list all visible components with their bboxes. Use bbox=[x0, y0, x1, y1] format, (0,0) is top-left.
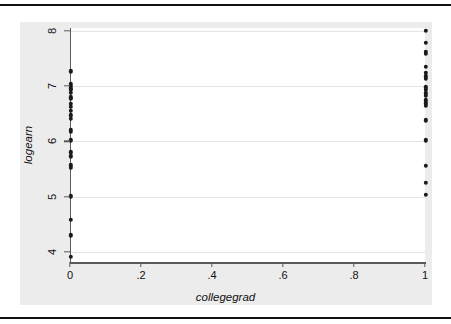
scatter-point bbox=[69, 154, 73, 158]
y-tick-label-4: 4 bbox=[46, 249, 58, 255]
gridline-y-6 bbox=[71, 141, 425, 142]
scatter-point bbox=[424, 52, 428, 56]
x-tick-.4 bbox=[211, 262, 212, 267]
x-tick-.2 bbox=[140, 262, 141, 267]
x-axis-line bbox=[70, 262, 426, 264]
scatter-point bbox=[69, 233, 73, 237]
x-tick-.8 bbox=[353, 262, 354, 267]
plot-area bbox=[70, 28, 425, 262]
x-tick-0 bbox=[69, 262, 70, 267]
scatter-point bbox=[69, 130, 73, 134]
y-tick-4 bbox=[64, 251, 70, 252]
scatter-point bbox=[69, 117, 73, 121]
x-tick-label-.4: .4 bbox=[207, 269, 216, 281]
scatter-point bbox=[424, 77, 428, 81]
x-tick-1 bbox=[424, 262, 425, 267]
gridline-y-7 bbox=[71, 86, 425, 87]
bottom-horizontal-rule bbox=[0, 317, 451, 319]
y-tick-5 bbox=[64, 196, 70, 197]
scatter-point bbox=[69, 255, 73, 259]
scatter-point bbox=[424, 138, 428, 142]
scatter-point bbox=[424, 181, 428, 185]
y-tick-label-5: 5 bbox=[46, 194, 58, 200]
y-tick-label-8: 8 bbox=[46, 28, 58, 34]
gridline-y-8 bbox=[71, 31, 425, 32]
scatter-point bbox=[424, 164, 428, 168]
x-tick-label-1: 1 bbox=[422, 269, 428, 281]
scatter-point bbox=[424, 65, 428, 69]
scatter-point bbox=[424, 193, 428, 197]
scatter-point bbox=[424, 29, 428, 33]
y-tick-6 bbox=[64, 141, 70, 142]
scatter-point bbox=[424, 41, 428, 45]
scatter-point bbox=[69, 69, 73, 73]
stata-scatter-figure: 0.2.4.6.81 45678 collegegrad logearn bbox=[0, 0, 451, 324]
x-tick-.6 bbox=[282, 262, 283, 267]
top-horizontal-rule bbox=[0, 4, 451, 6]
gridline-y-4 bbox=[71, 252, 425, 253]
x-axis-title: collegegrad bbox=[0, 291, 451, 303]
x-tick-label-.2: .2 bbox=[136, 269, 145, 281]
y-tick-label-6: 6 bbox=[46, 138, 58, 144]
y-tick-label-7: 7 bbox=[46, 83, 58, 89]
scatter-point bbox=[69, 166, 73, 170]
y-tick-7 bbox=[64, 85, 70, 86]
x-tick-label-.6: .6 bbox=[278, 269, 287, 281]
scatter-point bbox=[424, 104, 428, 108]
y-tick-8 bbox=[64, 30, 70, 31]
x-tick-label-0: 0 bbox=[67, 269, 73, 281]
scatter-point bbox=[424, 118, 428, 122]
scatter-point bbox=[69, 218, 73, 222]
gridline-y-5 bbox=[71, 197, 425, 198]
y-axis-title: logearn bbox=[22, 126, 34, 164]
x-tick-label-.8: .8 bbox=[349, 269, 358, 281]
scatter-point bbox=[69, 97, 73, 101]
